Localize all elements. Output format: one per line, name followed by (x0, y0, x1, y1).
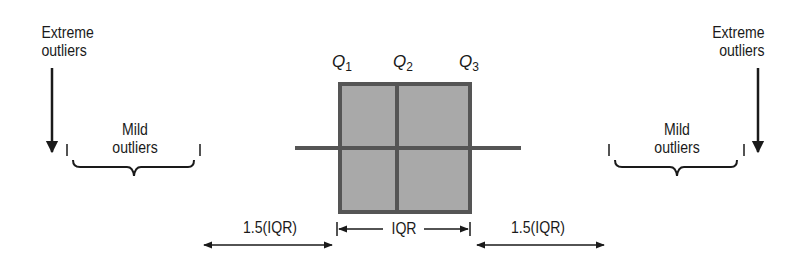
left-range-label: 1.5(IQR) (226, 219, 314, 237)
q3-label: Q3 (459, 52, 479, 74)
left-mild-outliers-label: Mild outliers (95, 121, 174, 157)
right-mild-outliers-label: Mild outliers (637, 121, 716, 157)
q1-label: Q1 (332, 52, 352, 74)
right-extreme-outliers-label: Extreme outliers (685, 24, 764, 60)
right-mild-brace (615, 160, 737, 176)
left-mild-brace (73, 160, 194, 176)
right-range-label: 1.5(IQR) (494, 219, 582, 237)
left-extreme-outliers-label: Extreme outliers (41, 24, 120, 60)
iqr-label: IQR (386, 220, 421, 238)
q2-label: Q2 (393, 52, 413, 74)
